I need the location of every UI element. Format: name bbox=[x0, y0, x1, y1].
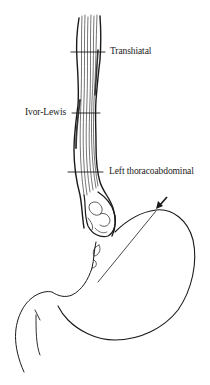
label-ivor-lewis: Ivor-Lewis bbox=[25, 108, 66, 118]
esophagectomy-diagram: Transhiatal Ivor-Lewis Left thoracoabdom… bbox=[0, 0, 210, 385]
label-transhiatal: Transhiatal bbox=[110, 47, 151, 57]
tumor-mass bbox=[84, 192, 115, 237]
anatomy-illustration bbox=[0, 0, 210, 385]
label-left-thoracoabdominal: Left thoracoabdominal bbox=[109, 167, 194, 177]
stomach bbox=[16, 210, 195, 372]
arrow-icon bbox=[156, 197, 167, 209]
